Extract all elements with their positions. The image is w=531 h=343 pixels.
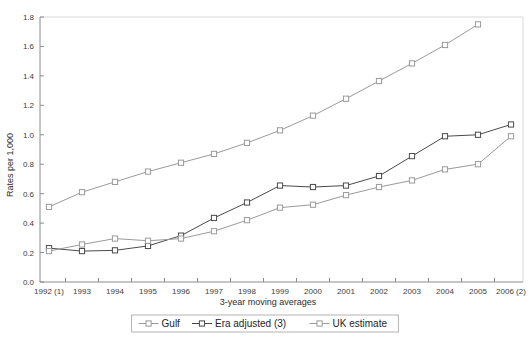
x-tick-label: 1993 — [73, 287, 91, 296]
x-tick-label: 1998 — [238, 287, 256, 296]
data-point-marker — [46, 204, 51, 209]
x-tick-label: 2005 — [469, 287, 487, 296]
data-point-marker — [79, 190, 84, 195]
data-point-marker — [475, 132, 480, 137]
x-tick-label: 1996 — [172, 287, 190, 296]
y-tick-label: 1.0 — [23, 131, 35, 140]
data-point-marker — [442, 42, 447, 47]
x-tick-label: 1995 — [139, 287, 157, 296]
y-tick-label: 1.8 — [23, 13, 35, 22]
data-point-marker — [178, 236, 183, 241]
data-point-marker — [79, 248, 84, 253]
x-tick-label: 2003 — [403, 287, 421, 296]
data-point-marker — [112, 179, 117, 184]
y-tick-label: 0.4 — [23, 219, 35, 228]
x-axis-title: 3-year moving averages — [220, 297, 317, 307]
y-tick-label: 1.2 — [23, 101, 35, 110]
x-tick-label: 2004 — [436, 287, 454, 296]
data-point-marker — [343, 96, 348, 101]
y-tick-label: 1.4 — [23, 72, 35, 81]
data-point-marker — [79, 242, 84, 247]
x-tick-label: 2006 (2) — [496, 287, 526, 296]
data-point-marker — [145, 169, 150, 174]
data-point-marker — [244, 140, 249, 145]
y-tick-label: 0.0 — [23, 278, 35, 287]
y-tick-label: 0.2 — [23, 249, 35, 258]
data-point-marker — [508, 134, 513, 139]
data-point-marker — [376, 184, 381, 189]
data-point-marker — [475, 22, 480, 27]
data-point-marker — [442, 134, 447, 139]
data-point-marker — [211, 229, 216, 234]
data-point-marker — [46, 248, 51, 253]
data-point-marker — [343, 193, 348, 198]
x-tick-label: 1997 — [205, 287, 223, 296]
data-point-marker — [310, 184, 315, 189]
y-axis-title: Rates per 1,000 — [5, 133, 15, 197]
data-point-marker — [376, 78, 381, 83]
x-axis-tick-labels: 1992 (1)19931994199519961997199819992000… — [34, 287, 526, 296]
data-point-marker — [475, 162, 480, 167]
x-tick-label: 1999 — [271, 287, 289, 296]
data-point-marker — [277, 128, 282, 133]
data-point-marker — [112, 248, 117, 253]
line-chart: 0.00.20.40.60.81.01.21.41.61.8 1992 (1)1… — [0, 0, 531, 343]
data-point-marker — [442, 167, 447, 172]
legend-marker-square — [146, 321, 151, 326]
data-point-marker — [409, 61, 414, 66]
data-point-marker — [409, 154, 414, 159]
data-point-marker — [211, 151, 216, 156]
legend-marker-square — [199, 321, 204, 326]
data-point-marker — [277, 205, 282, 210]
x-tick-label: 1994 — [106, 287, 124, 296]
x-tick-label: 1992 (1) — [34, 287, 64, 296]
data-point-marker — [376, 173, 381, 178]
data-point-marker — [343, 183, 348, 188]
data-point-marker — [310, 202, 315, 207]
data-point-marker — [409, 178, 414, 183]
data-point-marker — [211, 215, 216, 220]
data-point-marker — [277, 183, 282, 188]
data-point-marker — [508, 122, 513, 127]
legend-item-label: UK estimate — [333, 318, 388, 329]
legend-item-label: Era adjusted (3) — [215, 318, 286, 329]
x-tick-label: 2000 — [304, 287, 322, 296]
y-tick-label: 1.6 — [23, 42, 35, 51]
data-point-marker — [310, 113, 315, 118]
data-point-marker — [145, 243, 150, 248]
legend-item-label: Gulf — [162, 318, 181, 329]
x-tick-label: 2002 — [370, 287, 388, 296]
y-tick-label: 0.6 — [23, 190, 35, 199]
data-point-marker — [244, 200, 249, 205]
data-point-marker — [112, 236, 117, 241]
data-point-marker — [178, 160, 183, 165]
data-point-marker — [145, 238, 150, 243]
x-tick-label: 2001 — [337, 287, 355, 296]
chart-legend: GulfEra adjusted (3)UK estimate — [132, 315, 399, 332]
y-tick-label: 0.8 — [23, 160, 35, 169]
data-point-marker — [244, 218, 249, 223]
chart-container: 0.00.20.40.60.81.01.21.41.61.8 1992 (1)1… — [0, 0, 531, 343]
legend-marker-square — [317, 321, 322, 326]
